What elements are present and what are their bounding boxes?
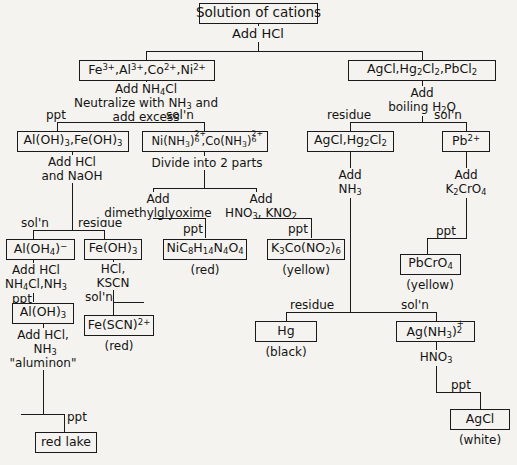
edge-feoh3-bar (113, 302, 144, 303)
reagent-aluminon: "aluminon" (8, 356, 79, 370)
node-label: Solution of cations (196, 6, 321, 20)
edge-agcl-split (350, 122, 467, 123)
fraction-soln-nh3: sol'n (401, 298, 429, 312)
reagent-add-right: Add (407, 86, 436, 100)
color-note-black-hg: (black) (265, 345, 306, 359)
fraction-residue-nh3: residue (290, 298, 334, 312)
edge-aloh3-split (33, 230, 105, 231)
edge-aluminon-bar (21, 414, 65, 415)
color-note-yellow-pb: (yellow) (406, 278, 454, 292)
reagent-divide: Divide into 2 parts (149, 156, 266, 170)
reagent-add-hcl-top: Add HCl (228, 26, 288, 41)
edge-hno3-bar (256, 218, 312, 219)
fraction-ppt-aluminon: ppt (67, 410, 87, 424)
node-label: Ag(NH3)+2 (406, 323, 464, 339)
node-agcl-hg2cl2-pbcl2: AgCl,Hg2Cl2,PbCl2 (348, 60, 496, 81)
node-pb2plus: Pb2+ (442, 131, 490, 152)
node-label: PbCrO4 (408, 257, 453, 271)
reagent-add-hcl-2: Add HCl (10, 263, 62, 277)
node-label: Pb2+ (452, 134, 480, 147)
reagent-add-hno3-1: Add (246, 192, 275, 206)
reagent-k2cro4: K2CrO4 (442, 182, 489, 198)
node-label: AgCl,Hg2Cl2 (314, 134, 387, 148)
flowchart-canvas: Solution of cations Add HCl Fe3+,Al3+,Co… (0, 0, 517, 465)
node-aloh3-lower: Al(OH)3 (12, 303, 74, 324)
node-label: NiC8H14N4O4 (166, 242, 243, 256)
node-agcl-hg2cl2: AgCl,Hg2Cl2 (307, 131, 394, 152)
reagent-hcl-comma: HCl, (99, 262, 128, 276)
reagent-hno3-final: HNO3 (418, 350, 455, 366)
reagent-hno3-kno2: HNO3, KNO2 (223, 206, 299, 222)
edge-top-split (146, 51, 423, 52)
fraction-soln-feoh3: sol'n (85, 290, 113, 304)
node-fescn2plus: Fe(SCN)2+ (84, 315, 154, 336)
edge-aluminon-to-box (64, 414, 65, 432)
fraction-residue-agcl: residue (327, 108, 371, 122)
reagent-nh4cl-nh3: NH4Cl,NH3 (3, 277, 69, 293)
node-fe-al-co-ni: Fe3+,Al3+,Co2+,Ni2+ (79, 60, 215, 81)
node-aloh4-minus: Al(OH4)− (6, 239, 75, 260)
node-label: AgCl,Hg2Cl2,PbCl2 (367, 63, 477, 77)
fraction-soln-agcl: sol'n (434, 108, 462, 122)
color-note-red-ni: (red) (190, 263, 219, 277)
node-label: Ni(NH3)2+6,Co(NH3)2+6 (151, 133, 258, 149)
edge-fe-split (57, 122, 205, 123)
node-feoh3: Fe(OH)3 (84, 239, 142, 260)
node-label: Fe(SCN)2+ (88, 318, 151, 331)
node-label: Al(OH4)− (14, 242, 68, 256)
node-label: Al(OH)3 (20, 306, 66, 320)
node-label: Fe(OH)3 (89, 242, 138, 256)
reagent-add-hcl-3: Add HCl, (15, 328, 71, 342)
reagent-add-dmg-1: Add (143, 192, 172, 206)
color-note-white-agcl: (white) (459, 433, 501, 447)
node-label: AgCl (466, 413, 495, 426)
edge-dmg-to-box (205, 218, 206, 238)
fraction-ppt-pb: ppt (436, 224, 456, 238)
edge-nh3-split (286, 312, 437, 313)
edge-agcl-final-bar (436, 392, 481, 393)
fraction-ppt-fe: ppt (46, 108, 66, 122)
node-label: Al(OH)3,Fe(OH)3 (23, 134, 122, 148)
node-solution-of-cations: Solution of cations (199, 3, 318, 24)
node-hg: Hg (255, 321, 317, 342)
color-note-yellow-co: (yellow) (282, 263, 330, 277)
fraction-ppt-hno3: ppt (288, 222, 308, 236)
reagent-kscn: KSCN (95, 276, 132, 290)
edge-agcl-final-down (480, 392, 481, 409)
fraction-soln-fe: sol'n (166, 108, 194, 122)
node-red-lake: red lake (35, 432, 97, 453)
node-k3cono26: K3Co(NO2)6 (267, 239, 345, 260)
edge-pb-to-box (427, 238, 428, 254)
edge-dmg-bar (153, 218, 205, 219)
fraction-soln-aloh3: sol'n (21, 216, 49, 230)
reagent-and-naoh: and NaOH (38, 169, 105, 183)
node-label: Hg (277, 325, 294, 338)
reagent-add-k2cro4-1: Add (451, 168, 480, 182)
node-aloh3-feoh3: Al(OH)3,Fe(OH)3 (17, 131, 129, 152)
reagent-add-nh3-1: Add (335, 168, 364, 182)
node-ni-co-ammine: Ni(NH3)2+6,Co(NH3)2+6 (142, 131, 268, 152)
node-agcl-final: AgCl (450, 409, 510, 430)
reagent-add-hcl-naoh: Add HCl (45, 155, 99, 169)
reagent-nh3: NH3 (335, 182, 364, 198)
node-pbcro4: PbCrO4 (400, 254, 461, 275)
fraction-ppt-final: ppt (451, 378, 471, 392)
color-note-red-fe: (red) (104, 339, 133, 353)
edge-divide-split (153, 188, 257, 189)
node-nic8h14n4o4: NiC8H14N4O4 (163, 239, 247, 260)
node-label: Fe3+,Al3+,Co2+,Ni2+ (88, 63, 205, 76)
node-label: red lake (41, 436, 91, 449)
node-agnh32plus: Ag(NH3)+2 (396, 321, 475, 342)
edge-hno3-to-box (311, 218, 312, 238)
fraction-ppt-dmg: ppt (183, 222, 203, 236)
edge-pb-bar (427, 238, 467, 239)
node-label: K3Co(NO2)6 (271, 242, 341, 256)
